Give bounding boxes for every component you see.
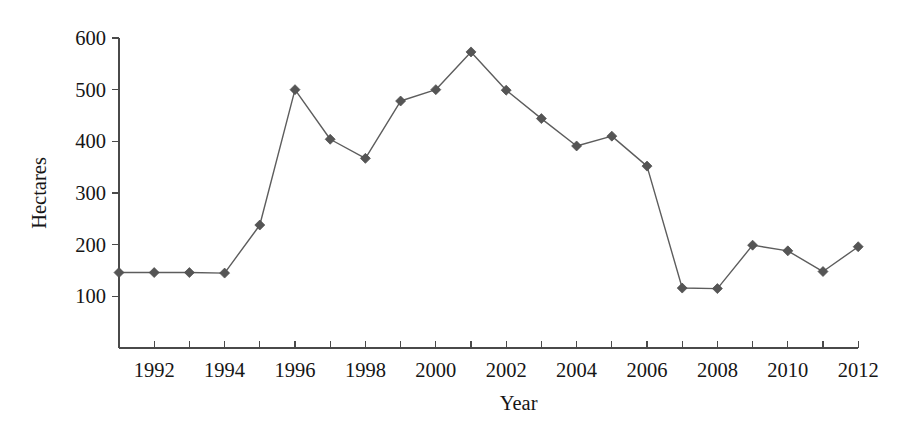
data-point-marker bbox=[325, 134, 335, 144]
y-axis-tick-label: 400 bbox=[75, 130, 106, 152]
data-point-marker bbox=[220, 268, 230, 278]
x-axis-tick-label: 1992 bbox=[134, 359, 175, 381]
data-point-marker bbox=[783, 246, 793, 256]
data-point-marker bbox=[360, 153, 370, 163]
x-axis-tick-label: 2000 bbox=[415, 359, 456, 381]
series-line-hectares bbox=[119, 52, 858, 289]
x-axis-tick-label: 2002 bbox=[486, 359, 527, 381]
y-axis-tick-label: 300 bbox=[75, 182, 106, 204]
data-point-marker bbox=[255, 220, 265, 230]
chart-plot-area: 1002003004005006001992199419961998200020… bbox=[0, 0, 911, 430]
y-axis-tick-label: 200 bbox=[75, 234, 106, 256]
data-point-marker bbox=[396, 96, 406, 106]
data-point-marker bbox=[677, 283, 687, 293]
data-point-marker bbox=[184, 268, 194, 278]
y-axis-tick-label: 500 bbox=[75, 79, 106, 101]
x-axis-tick-label: 1996 bbox=[275, 359, 316, 381]
x-axis-tick-label: 2006 bbox=[627, 359, 668, 381]
x-axis-tick-label: 2012 bbox=[838, 359, 879, 381]
x-axis-tick-label: 1998 bbox=[345, 359, 386, 381]
y-axis-tick-label: 600 bbox=[75, 27, 106, 49]
x-axis-tick-label: 1994 bbox=[204, 359, 245, 381]
data-point-marker bbox=[149, 268, 159, 278]
y-axis-title: Hectares bbox=[28, 157, 50, 229]
x-axis-tick-label: 2008 bbox=[697, 359, 738, 381]
data-point-marker bbox=[114, 268, 124, 278]
x-axis-tick-label: 2004 bbox=[556, 359, 597, 381]
x-axis-tick-label: 2010 bbox=[767, 359, 808, 381]
line-chart: 1002003004005006001992199419961998200020… bbox=[0, 0, 911, 430]
x-axis-title: Year bbox=[500, 392, 538, 414]
y-axis-tick-label: 100 bbox=[75, 285, 106, 307]
data-point-marker bbox=[290, 85, 300, 95]
data-point-marker bbox=[853, 242, 863, 252]
data-point-marker bbox=[818, 267, 828, 277]
